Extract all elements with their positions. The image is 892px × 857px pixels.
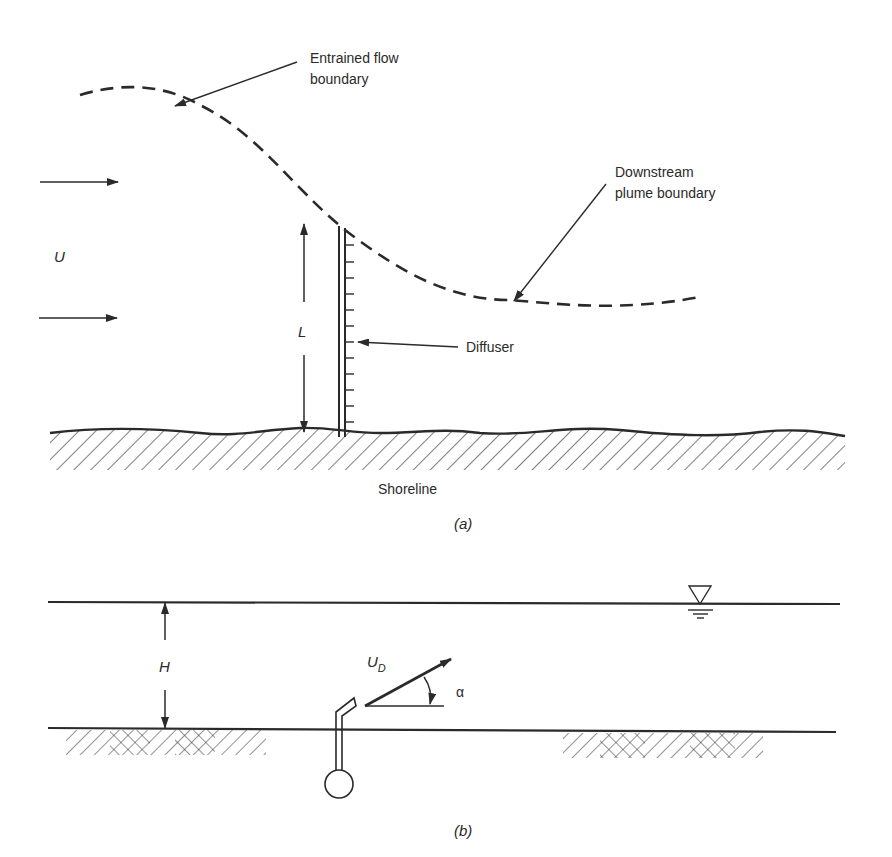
shoreline-label: Shoreline	[378, 481, 437, 497]
bed-hatch-left	[66, 730, 266, 755]
water-surface-line	[48, 602, 840, 604]
discharge-riser	[325, 698, 356, 798]
downstream-leader-arrow	[514, 184, 606, 301]
diffuser-ports	[345, 245, 354, 422]
diffuser-pipe	[339, 226, 354, 437]
shoreline-ground	[50, 425, 845, 470]
diffuser-label: Diffuser	[466, 339, 514, 355]
figure-a: Entrained flow boundary Downstream plume…	[39, 50, 845, 532]
angle-arc-arrow	[424, 677, 431, 704]
plume-boundary-curve	[80, 87, 700, 306]
bed-hatch-right	[563, 733, 763, 758]
depth-label-H: H	[159, 658, 170, 675]
velocity-label-U: U	[54, 248, 65, 265]
diffuser-leader-arrow	[358, 342, 458, 347]
downstream-label-line2: plume boundary	[615, 185, 715, 201]
diffuser-diagram: Entrained flow boundary Downstream plume…	[0, 0, 892, 857]
figure-b: H UD α (b)	[48, 586, 840, 839]
figure-canvas: Entrained flow boundary Downstream plume…	[0, 0, 892, 857]
entrained-label-line1: Entrained flow	[310, 50, 400, 66]
caption-b: (b)	[454, 822, 472, 839]
jet-velocity-label: UD	[367, 653, 386, 674]
triangle-water-level-icon	[688, 586, 713, 618]
caption-a: (a)	[454, 515, 472, 532]
length-label-L: L	[298, 323, 306, 340]
entrained-label-line2: boundary	[310, 71, 368, 87]
downstream-label-line1: Downstream	[615, 164, 694, 180]
entrained-leader-arrow	[175, 62, 297, 106]
angle-label-alpha: α	[456, 684, 464, 700]
